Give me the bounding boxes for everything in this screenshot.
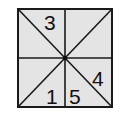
- square-diagram: 3 1 5 4: [0, 0, 121, 118]
- label-5: 5: [69, 85, 81, 108]
- center-point: [63, 56, 67, 60]
- label-4: 4: [92, 67, 104, 90]
- label-3: 3: [44, 11, 56, 34]
- label-1: 1: [46, 85, 58, 108]
